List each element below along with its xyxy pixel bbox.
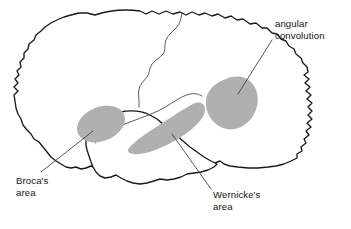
- wernickes-area-label-line1: Wernicke's: [213, 189, 261, 200]
- brocas-area-label-line1: Broca's: [16, 175, 48, 186]
- angular-convolution-label-line2: convolution: [275, 30, 325, 41]
- angular-convolution-label-line1: angular: [275, 18, 308, 29]
- brocas-area-label-line2: area: [16, 187, 36, 198]
- brain-lateral-view-illustration: angular convolution Broca's area Wernick…: [0, 0, 351, 229]
- brain-diagram-figure: angular convolution Broca's area Wernick…: [0, 0, 351, 229]
- wernickes-area-label-line2: area: [213, 201, 233, 212]
